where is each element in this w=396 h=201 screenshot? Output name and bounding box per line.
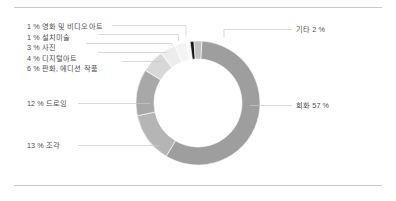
donut-slice-기타 [194, 41, 202, 59]
leader-line-other [224, 30, 292, 39]
slice-label-sculpture: 13 % 조각 [27, 141, 60, 150]
leader-line-digital-art [98, 52, 167, 53]
donut-chart-figure: 1 % 영화 및 비디오아트 1 % 설치미술 3 % 사진 4 % 디지털아트… [0, 0, 396, 201]
leader-line-film-video [112, 26, 186, 36]
slice-label-drawing: 12 % 드로잉 [27, 99, 67, 108]
slice-label-digital-art: 4 % 디지털아트 [27, 54, 103, 63]
leader-line-installation [98, 35, 179, 42]
slice-label-painting: 회화 57 % [296, 101, 329, 110]
slice-label-installation: 1 % 설치미술 [27, 33, 103, 42]
slice-label-print-edition: 6 % 판화, 에디션 작품 [27, 64, 103, 73]
donut-slice-조각 [137, 112, 175, 156]
slice-label-photography: 3 % 사진 [27, 43, 103, 52]
donut-slice-group [136, 41, 260, 165]
slice-label-other: 기타 2 % [296, 25, 325, 34]
slice-label-film-video: 1 % 영화 및 비디오아트 [27, 22, 103, 31]
small-slice-callout-stack: 1 % 영화 및 비디오아트 1 % 설치미술 3 % 사진 4 % 디지털아트… [27, 22, 103, 75]
